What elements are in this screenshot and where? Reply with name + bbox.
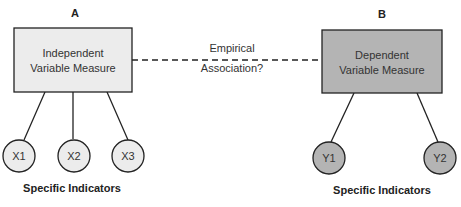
box-a-line1: Independent	[42, 47, 103, 59]
connector-b-y1	[331, 93, 354, 142]
indicator-label-x2: X2	[67, 150, 80, 162]
connector-a-x1	[24, 92, 45, 140]
measurement-diagram: Empirical Association? A Independent Var…	[0, 0, 461, 207]
indicators-b-caption: Specific Indicators	[333, 184, 431, 196]
indicator-label-x1: X1	[12, 150, 25, 162]
connector-b-y2	[417, 93, 438, 142]
box-a-line2: Variable Measure	[30, 62, 115, 74]
indicators-a-caption: Specific Indicators	[23, 182, 121, 194]
indicator-label-y1: Y1	[322, 152, 335, 164]
association-label-line2: Association?	[201, 62, 263, 74]
box-b-letter: B	[378, 8, 386, 20]
box-b-line1: Dependent	[355, 49, 409, 61]
box-a-letter: A	[71, 7, 79, 19]
dependent-variable-box	[322, 30, 442, 93]
connector-a-x3	[107, 92, 128, 140]
indicator-label-x3: X3	[121, 150, 134, 162]
association-label-line1: Empirical	[209, 42, 254, 54]
box-b-line2: Variable Measure	[339, 64, 424, 76]
indicator-label-y2: Y2	[433, 152, 446, 164]
independent-variable-box	[14, 28, 132, 92]
